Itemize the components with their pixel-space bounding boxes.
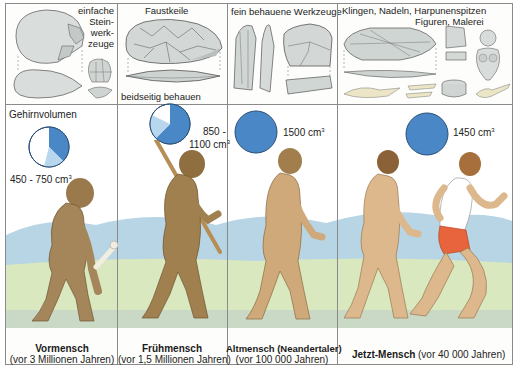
brain-volume-pie-vormensch [27,125,71,169]
hand-axe-icon [120,14,226,90]
stage-name-vormensch: Vormensch [8,343,116,354]
volume-fruehmensch-line1: 850 - [203,126,223,137]
stage-name-fruehmensch: Frühmensch [118,343,226,354]
stage-name-altmensch: Altmensch (Neandertaler) [226,343,338,354]
volume-altmensch: 1500 cm3 [283,125,325,138]
stage-name-jetztmensch: Jetzt-Mensch [352,349,415,360]
figure-vormensch [18,175,118,325]
tool-label-pebble-line1: einfache [76,5,114,16]
tool-label-pebble-line4: zeuge [76,38,114,49]
stage-era-jetztmensch: (vor 40 000 Jahren) [418,349,505,360]
figure-fruehmensch [126,140,226,325]
tool-label-fine-tools: fein behauene Werkzeuge [231,6,342,17]
stage-era-fruehmensch: (vor 1,5 Millionen Jahren) [118,354,226,365]
volume-jetztmensch: 1450 cm3 [453,125,495,138]
tool-label-blades-line1: Klingen, Nadeln, Harpunenspitzen [342,5,486,16]
tool-label-pebble-line3: werk- [76,27,114,38]
stage-era-altmensch: (vor 100 000 Jahren) [228,354,336,365]
figure-jetztmensch-running [400,148,512,326]
column-divider [227,3,228,365]
figure-altmensch [238,145,338,325]
tool-label-pebble-line2: Stein- [76,16,114,27]
tool-label-hand-axe: Faustkeile [145,5,188,16]
tool-label-blades-line2: Figuren, Malerei [415,16,484,27]
flake-tool-icon [230,18,336,98]
blade-harpoon-figurine-icon [340,22,512,102]
tool-sublabel-bifacial: beidseitig behauen [121,91,201,102]
stage-era-vormensch: (vor 3 Millionen Jahren) [8,354,116,365]
brain-volume-heading: Gehirnvolumen [9,109,77,120]
